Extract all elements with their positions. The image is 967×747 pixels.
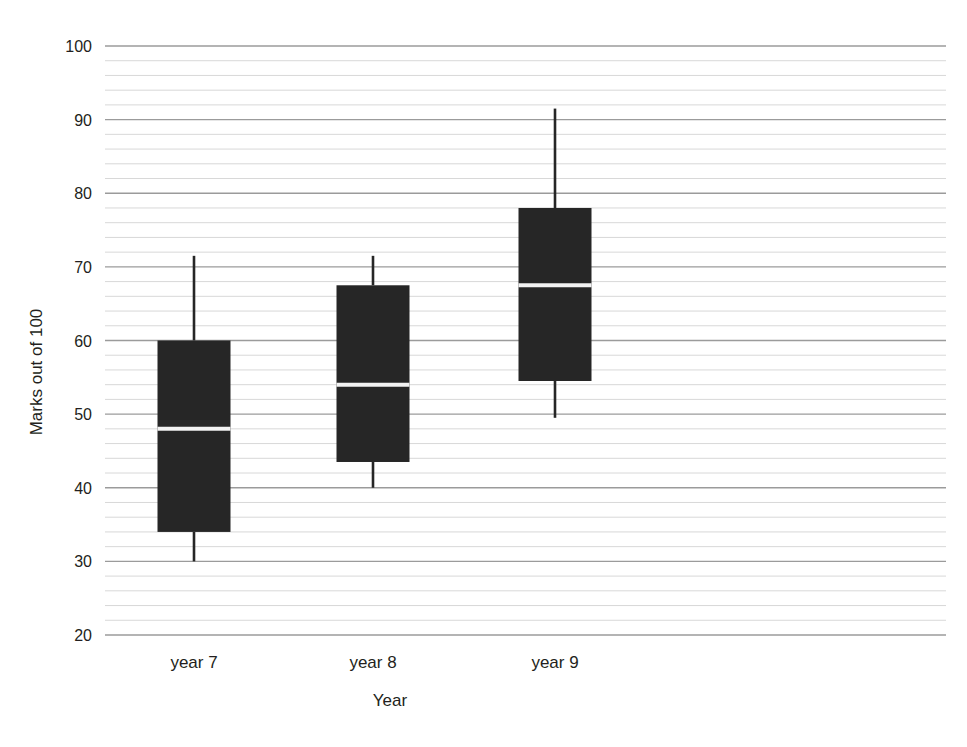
box-body — [337, 285, 410, 462]
box-plot-series — [158, 109, 592, 562]
y-tick-label: 50 — [74, 406, 92, 423]
y-tick-label: 100 — [65, 38, 92, 55]
box-plot-item — [158, 256, 231, 562]
y-tick-label: 40 — [74, 480, 92, 497]
x-tick-label: year 9 — [531, 653, 578, 672]
x-tick-label: year 8 — [349, 653, 396, 672]
box-body — [519, 208, 592, 381]
x-tick-label: year 7 — [170, 653, 217, 672]
y-axis-title: Marks out of 100 — [27, 309, 46, 436]
y-axis-tick-labels: 1009080706050403020 — [65, 38, 92, 644]
box-plot-chart: 1009080706050403020 year 7year 8year 9 M… — [0, 0, 967, 747]
y-tick-label: 70 — [74, 259, 92, 276]
box-body — [158, 341, 231, 532]
box-plot-item — [519, 109, 592, 418]
x-axis-title: Year — [373, 691, 408, 710]
y-tick-label: 20 — [74, 627, 92, 644]
x-axis-tick-labels: year 7year 8year 9 — [170, 653, 578, 672]
y-tick-label: 90 — [74, 112, 92, 129]
y-tick-label: 80 — [74, 185, 92, 202]
chart-svg: 1009080706050403020 year 7year 8year 9 M… — [0, 0, 967, 747]
box-plot-item — [337, 256, 410, 488]
y-tick-label: 30 — [74, 553, 92, 570]
y-tick-label: 60 — [74, 333, 92, 350]
